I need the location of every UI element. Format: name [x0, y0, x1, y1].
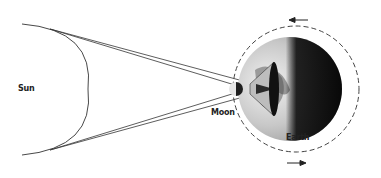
earth-shadow	[269, 62, 279, 116]
eclipse-diagram	[0, 0, 381, 178]
moon-label: Moon	[211, 108, 235, 117]
orbit-arrow-bottom	[287, 161, 306, 166]
sun-rays	[50, 29, 258, 150]
orbit-arrow-top	[289, 18, 308, 23]
earth-label: Earth	[286, 133, 309, 142]
sun-label: Sun	[18, 84, 35, 93]
